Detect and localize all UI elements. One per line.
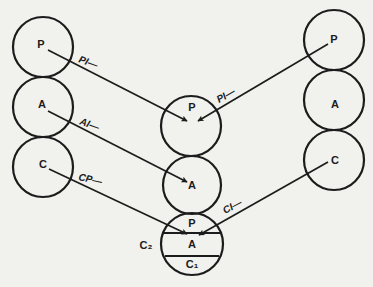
right-node-p: P: [304, 10, 364, 70]
edge-left-c-to-middle-bottom-p: [49, 169, 187, 234]
edge-label-left-p: PI—: [77, 54, 100, 71]
edge-label-left-a: AI—: [77, 115, 101, 133]
segment-c1-label: C₁: [186, 258, 199, 270]
right-column: P A C: [304, 10, 364, 190]
edges: [48, 44, 328, 235]
right-node-c-label: C: [331, 154, 339, 166]
c2-side-label: C₂: [140, 239, 153, 251]
left-node-a: A: [13, 77, 73, 137]
edge-left-a-to-middle-a: [48, 111, 187, 182]
left-node-c-label: C: [39, 158, 47, 170]
edge-label-right-p: PI—: [215, 85, 238, 105]
diagram-canvas: P A C P A C P A: [0, 0, 373, 287]
segment-a-label: A: [188, 238, 196, 250]
right-node-p-label: P: [330, 33, 337, 45]
middle-node-p: P: [161, 96, 221, 156]
right-node-a-label: A: [331, 98, 339, 110]
middle-node-p-label: P: [188, 101, 195, 113]
left-node-p: P: [13, 17, 73, 77]
left-node-p-label: P: [37, 38, 44, 50]
left-column: P A C: [13, 17, 73, 197]
middle-node-a: A: [163, 156, 221, 214]
edge-label-right-c: CI—: [221, 196, 245, 216]
left-node-c: C: [13, 137, 73, 197]
middle-node-c2: P A C₁ C₂: [140, 213, 223, 275]
middle-node-a-label: A: [188, 179, 196, 191]
right-node-c: C: [304, 130, 364, 190]
segment-p-label: P: [188, 217, 195, 229]
right-node-a: A: [304, 70, 364, 130]
left-node-a-label: A: [38, 98, 46, 110]
edge-left-p-to-middle-p: [48, 50, 187, 121]
middle-column: P A P A C₁ C₂: [140, 96, 223, 275]
